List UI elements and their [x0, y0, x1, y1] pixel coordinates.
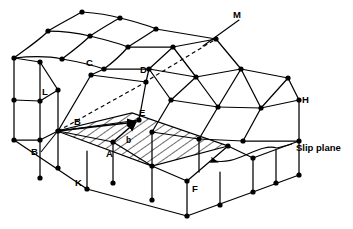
- left-face: [14, 58, 58, 140]
- m-pointer-line: [203, 20, 239, 46]
- vertex-label-b: B: [74, 116, 81, 127]
- vertex-label-f: F: [192, 183, 198, 194]
- slip-plane-diagram: M C D L H B B E A K F b Slip plane: [0, 0, 353, 229]
- vertex-label-h: H: [302, 94, 309, 105]
- callout-label-b: B: [31, 146, 38, 157]
- vertex-label-d: D: [140, 64, 147, 75]
- top-surface-left-distorted: [14, 12, 156, 69]
- slip-plane-annotation: Slip plane: [296, 142, 341, 153]
- lattice-drawing: M C D L H B B E A K F b Slip plane: [0, 0, 353, 229]
- slip-plane-region: [57, 113, 228, 166]
- vertex-label-l: L: [42, 86, 48, 97]
- vertex-label-k: K: [75, 177, 82, 188]
- vertex-label-a: A: [106, 148, 113, 159]
- burgers-vector-label: b: [126, 135, 131, 145]
- right-face: [243, 78, 299, 141]
- vertex-label-c: C: [86, 57, 93, 68]
- vertex-label-e: E: [139, 107, 145, 118]
- vertex-label-m: M: [233, 9, 241, 20]
